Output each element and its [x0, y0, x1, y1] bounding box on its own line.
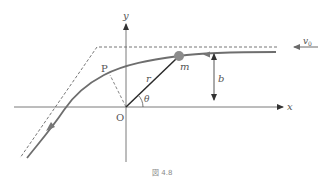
mass-label: m [180, 61, 189, 72]
trajectory-curve [27, 52, 276, 158]
velocity-label: v0 [303, 36, 312, 47]
x-axis-label: x [287, 101, 293, 112]
y-axis-label: y [122, 10, 129, 21]
angle-label: θ [144, 94, 150, 104]
trajectory-arrow-icon [203, 52, 210, 58]
impact-parameter-label: b [218, 73, 224, 84]
radius-line [126, 59, 176, 107]
figure-caption: 図 4.8 [152, 169, 172, 177]
scattering-diagram: y x O P m r θ b v0 図 4.8 [0, 0, 332, 184]
mass-particle [174, 51, 184, 61]
perpendicular-dashed-line [110, 75, 126, 107]
origin-label: O [116, 112, 124, 123]
angle-arc [138, 95, 143, 107]
point-p-label: P [101, 63, 108, 74]
